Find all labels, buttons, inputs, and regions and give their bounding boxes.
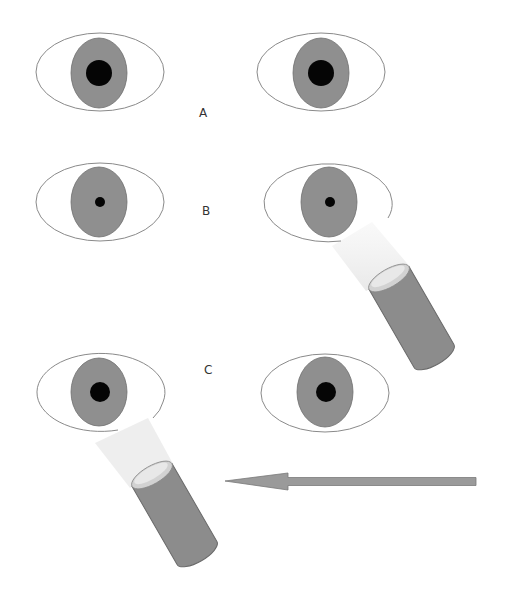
row-b-left-eye <box>36 163 164 241</box>
label-c: C <box>204 363 212 377</box>
row-a-right-eye <box>257 33 385 111</box>
flashlight-icon <box>128 456 222 573</box>
label-b: B <box>202 204 210 218</box>
pupil-constricted <box>95 197 105 207</box>
pupil <box>90 382 110 402</box>
pupil <box>86 60 112 86</box>
pupil-light-reflex-diagram <box>0 0 505 601</box>
label-a: A <box>199 106 207 120</box>
arrow-left-icon <box>225 473 476 490</box>
row-a-left-eye <box>36 33 164 111</box>
pupil <box>308 60 334 86</box>
pupil-constricted <box>325 197 335 207</box>
flashlight-icon <box>365 259 459 376</box>
row-c-right-eye <box>261 354 389 432</box>
pupil <box>316 382 336 402</box>
